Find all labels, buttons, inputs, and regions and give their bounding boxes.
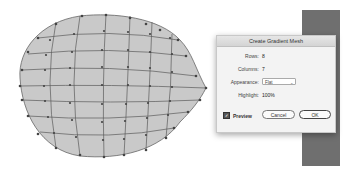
columns-input[interactable]: 7 — [262, 66, 265, 72]
columns-row: Columns: 7 — [217, 66, 265, 72]
chevron-down-icon: ⌄ — [290, 79, 293, 86]
create-gradient-mesh-dialog: Create Gradient Mesh Rows: 8 Columns: 7 … — [216, 35, 336, 133]
highlight-input[interactable]: 100% — [262, 92, 275, 98]
appearance-value: Flat — [265, 80, 273, 85]
preview-checkbox-row[interactable]: ✓ Preview — [223, 112, 252, 119]
rows-label: Rows: — [217, 53, 259, 59]
appearance-label: Appearance: — [217, 79, 259, 85]
appearance-select[interactable]: Flat ⌄ — [262, 78, 296, 85]
rows-row: Rows: 8 — [217, 53, 265, 59]
preview-label: Preview — [233, 113, 252, 119]
cancel-button[interactable]: Cancel — [262, 110, 295, 119]
dialog-title: Create Gradient Mesh — [217, 36, 335, 47]
highlight-label: Highlight: — [217, 92, 259, 98]
highlight-row: Highlight: 100% — [217, 92, 275, 98]
appearance-row: Appearance: Flat ⌄ — [217, 78, 296, 85]
columns-label: Columns: — [217, 66, 259, 72]
ok-button[interactable]: OK — [299, 110, 331, 119]
preview-checkbox[interactable]: ✓ — [223, 112, 230, 119]
rows-input[interactable]: 8 — [262, 53, 265, 59]
